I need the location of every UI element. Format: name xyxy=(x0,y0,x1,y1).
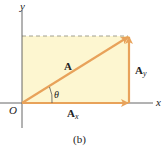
x-axis-label: x xyxy=(156,97,161,108)
angle-theta-label: θ xyxy=(54,90,59,100)
vector-ay-subscript: y xyxy=(143,69,147,78)
origin-label: O xyxy=(9,105,17,116)
vector-a-label: A xyxy=(64,61,72,72)
vector-ax-subscript: x xyxy=(75,112,79,121)
vector-ay-label: Ay xyxy=(135,65,147,78)
y-axis-label: y xyxy=(20,1,25,12)
vector-ay-symbol: A xyxy=(135,64,143,76)
figure-caption: (b) xyxy=(73,134,86,145)
vector-ax-symbol: A xyxy=(67,107,75,119)
vector-ax-label: Ax xyxy=(67,108,79,121)
